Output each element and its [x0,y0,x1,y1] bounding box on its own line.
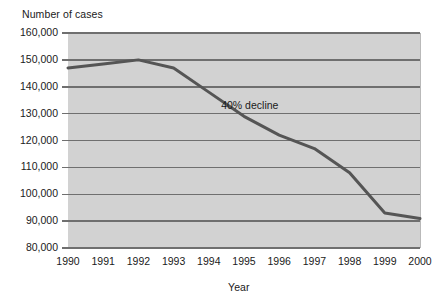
plot-area [68,33,421,248]
data-line-svg [68,33,420,248]
y-tick-label-160000: 160,000 [2,26,58,38]
data-series-line [68,60,420,219]
y-tick-label-90000: 90,000 [2,214,58,226]
y-tick-label-80000: 80,000 [2,241,58,253]
y-tick-label-140000: 140,000 [2,80,58,92]
annotation-decline-label: 40% decline [221,99,278,111]
y-tick-label-130000: 130,000 [2,107,58,119]
x-axis-title: Year [228,281,250,293]
y-axis-title: Number of cases [22,8,103,20]
line-chart-figure: Number of cases 80,00090,000100,000110,0… [0,0,439,306]
y-tick-label-120000: 120,000 [2,134,58,146]
y-tick-label-110000: 110,000 [2,160,58,172]
y-tick-label-100000: 100,000 [2,187,58,199]
y-tick-label-150000: 150,000 [2,53,58,65]
x-tick-label-2000: 2000 [397,255,439,267]
